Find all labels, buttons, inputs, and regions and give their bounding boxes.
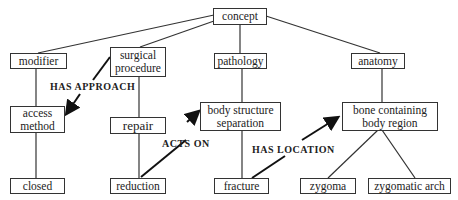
node-modifier: modifier bbox=[10, 53, 67, 69]
node-repair: repair bbox=[110, 117, 166, 134]
arrow-has-approach bbox=[67, 94, 80, 113]
node-concept: concept bbox=[213, 8, 267, 25]
edge-concept-anatomy bbox=[266, 16, 380, 53]
relation-label-acts-on: ACTS ON bbox=[162, 138, 210, 149]
node-closed: closed bbox=[10, 178, 65, 194]
node-fracture: fracture bbox=[214, 178, 269, 194]
node-zygomatic-arch: zygomatic arch bbox=[368, 178, 451, 194]
edge-concept-surgical-procedure bbox=[140, 21, 214, 47]
node-access-method: access method bbox=[10, 106, 65, 133]
node-zygoma: zygoma bbox=[300, 178, 356, 194]
edge-bone-region-zygomatic-arch bbox=[382, 130, 415, 178]
relation-label-has-approach: HAS APPROACH bbox=[50, 81, 135, 92]
arrow-acts-on bbox=[187, 112, 198, 122]
edge-has-location-lower bbox=[252, 156, 285, 178]
edge-has-approach-upper bbox=[93, 57, 110, 80]
concept-diagram: concept modifier surgical procedure path… bbox=[0, 0, 458, 200]
node-body-structure-separation: body structure separation bbox=[200, 102, 281, 131]
arrow-has-location bbox=[302, 118, 337, 140]
node-bone-containing-body-region: bone containing body region bbox=[342, 102, 438, 131]
relation-label-has-location: HAS LOCATION bbox=[252, 144, 335, 155]
node-surgical-procedure: surgical procedure bbox=[110, 47, 166, 77]
diagram-edges bbox=[0, 0, 458, 200]
node-reduction: reduction bbox=[110, 178, 166, 194]
node-pathology: pathology bbox=[214, 53, 267, 69]
node-anatomy: anatomy bbox=[351, 53, 405, 69]
edge-bone-region-zygoma bbox=[328, 130, 378, 178]
